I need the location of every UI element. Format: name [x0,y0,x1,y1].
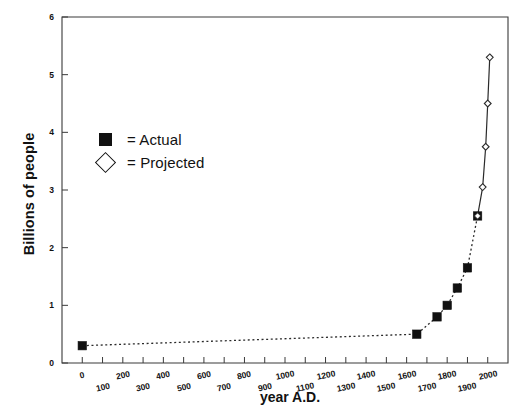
chart-plot-area [0,0,528,420]
y-tick-label: 3 [38,185,54,195]
y-tick-label: 6 [38,12,54,22]
y-tick-label: 4 [38,127,54,137]
filled-square-icon [92,133,118,146]
legend-item-projected: = Projected [92,151,204,174]
y-tick-label: 1 [38,300,54,310]
y-tick-label: 0 [38,358,54,368]
legend-label-actual: = Actual [127,131,182,148]
x-axis-title: year A.D. [210,389,370,405]
chart-legend: = Actual = Projected [92,128,204,174]
open-diamond-icon [92,155,118,170]
legend-label-projected: = Projected [127,154,204,171]
y-tick-label: 2 [38,243,54,253]
y-tick-label: 5 [38,70,54,80]
legend-item-actual: = Actual [92,128,204,151]
y-axis-title: Billions of people [21,119,37,269]
population-growth-chart: 0123456 01002003004005006007008009001000… [0,0,528,420]
